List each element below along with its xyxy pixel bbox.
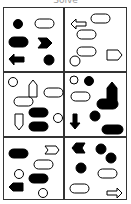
filled-rounded-rect bbox=[29, 122, 48, 131]
outlined-circle bbox=[70, 56, 80, 66]
filled-circle bbox=[90, 111, 100, 121]
outlined-rounded-rect bbox=[14, 97, 33, 106]
filled-arrow-down bbox=[70, 114, 80, 129]
outlined-rounded-rect bbox=[71, 92, 90, 101]
outlined-arrow-right bbox=[107, 188, 122, 198]
outlined-rounded-rect bbox=[77, 30, 96, 39]
filled-circle bbox=[85, 77, 94, 86]
outlined-circle bbox=[9, 78, 18, 87]
filled-arrow-left bbox=[9, 54, 24, 65]
shapes-canvas bbox=[0, 0, 131, 204]
filled-rounded-rect bbox=[102, 125, 123, 134]
filled-rounded-rect bbox=[29, 108, 48, 117]
outlined-pentagon-right bbox=[107, 50, 122, 60]
filled-circle bbox=[14, 20, 23, 29]
panel-bottom-right[interactable] bbox=[70, 143, 122, 198]
outlined-pentagon-down bbox=[15, 114, 23, 130]
filled-rounded-rect bbox=[29, 174, 48, 183]
filled-circle bbox=[96, 144, 106, 154]
filled-circle bbox=[106, 153, 116, 163]
filled-rounded-rect bbox=[97, 99, 118, 109]
panel-bottom-left[interactable] bbox=[9, 146, 59, 198]
outlined-rounded-rect bbox=[35, 19, 54, 28]
outlined-arrow-left bbox=[71, 19, 86, 29]
outlined-rounded-rect bbox=[98, 169, 117, 178]
panel-top-left[interactable] bbox=[9, 19, 54, 65]
outlined-circle bbox=[39, 189, 48, 198]
filled-circle bbox=[44, 55, 54, 65]
outlined-chevron bbox=[45, 146, 59, 154]
panel-middle-right[interactable] bbox=[70, 76, 123, 134]
outlined-circle bbox=[15, 170, 24, 179]
outlined-rounded-rect bbox=[77, 47, 96, 56]
outlined-pentagon-up bbox=[29, 80, 37, 97]
filled-circle bbox=[76, 163, 86, 173]
filled-chevron bbox=[38, 38, 52, 48]
filled-chevron-left bbox=[72, 143, 85, 153]
filled-rounded-rect bbox=[9, 37, 28, 47]
outlined-rounded-rect bbox=[44, 88, 63, 97]
filled-pentagon-left bbox=[9, 183, 23, 191]
outlined-rounded-rect bbox=[34, 160, 53, 169]
outlined-circle bbox=[54, 114, 63, 123]
outlined-rounded-rect bbox=[91, 14, 110, 23]
filled-rounded-rect bbox=[9, 149, 28, 158]
filled-pentagon-up bbox=[107, 82, 117, 101]
panel-middle-left[interactable] bbox=[9, 78, 64, 132]
panel-top-right[interactable] bbox=[70, 14, 122, 66]
outlined-rounded-rect bbox=[70, 184, 89, 193]
outlined-circle bbox=[70, 76, 78, 84]
